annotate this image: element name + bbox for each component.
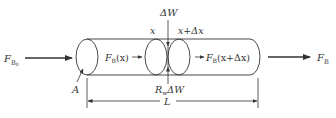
area-label: A [71, 84, 79, 95]
section-x-plus-dx [168, 39, 190, 75]
cylinder-left-end [76, 39, 98, 75]
section-x [145, 39, 167, 75]
length-label: L [163, 96, 171, 107]
section-x-label: x [150, 25, 156, 36]
load-label: ΔW [159, 7, 178, 18]
internal-force-right-label: FB(x+Δx) [205, 52, 250, 64]
section-x-plus-dx-label: x+Δx [178, 25, 204, 36]
cylinder-force-diagram: FB0 A FB(x) FB(x+Δx) x x+Δx ΔW RwΔW L FB [0, 0, 336, 118]
output-force-label: FB [316, 52, 329, 66]
input-force-label: FB0 [3, 53, 19, 67]
internal-force-left-label: FB(x) [104, 52, 129, 64]
reaction-label: RwΔW [154, 84, 185, 96]
